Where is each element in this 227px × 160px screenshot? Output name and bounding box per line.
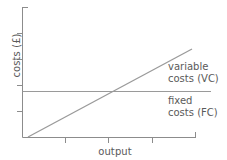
fixed-costs-label-line2: costs (FC) — [168, 107, 218, 119]
y-axis-label: costs (£) — [11, 33, 22, 77]
variable-costs-label-line1: variable — [168, 61, 219, 73]
fixed-costs-label: fixed costs (FC) — [168, 95, 218, 118]
x-axis-label-container: output — [60, 140, 170, 159]
variable-costs-label-line2: costs (VC) — [168, 73, 219, 85]
x-axis-label: output — [98, 146, 132, 157]
y-axis-label-container: costs (£) — [5, 26, 24, 86]
cost-curves-chart: costs (£) output variable costs (VC) fix… — [0, 0, 227, 160]
variable-costs-label: variable costs (VC) — [168, 61, 219, 84]
fixed-costs-label-line1: fixed — [168, 95, 218, 107]
